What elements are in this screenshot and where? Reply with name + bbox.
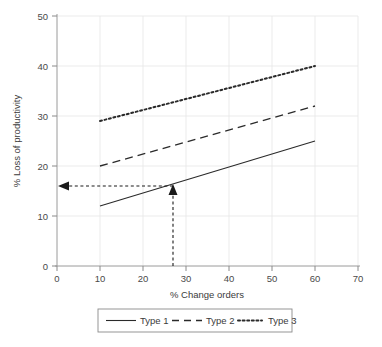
y-tick-label-20: 20	[37, 161, 48, 172]
y-tick-label-40: 40	[37, 61, 48, 72]
legend: Type 1 Type 2 Type 3	[98, 309, 297, 332]
chart-container: 50 40 30 20 10 0 0 10 20 30 40 50	[0, 0, 382, 347]
y-tick-label-30: 30	[37, 111, 48, 122]
x-tick-label-40: 40	[224, 273, 235, 284]
y-axis-title: % Loss of productivity	[11, 95, 22, 188]
x-tick-label-10: 10	[95, 273, 106, 284]
legend-label-type-2: Type 2	[206, 315, 235, 326]
x-tick-label-60: 60	[310, 273, 321, 284]
x-tick-label-0: 0	[54, 273, 59, 284]
legend-label-type-1: Type 1	[140, 315, 169, 326]
x-tick-label-20: 20	[138, 273, 149, 284]
x-tick-label-70: 70	[353, 273, 364, 284]
x-tick-label-50: 50	[267, 273, 278, 284]
line-chart: 50 40 30 20 10 0 0 10 20 30 40 50	[0, 0, 382, 347]
x-axis-title: % Change orders	[170, 289, 244, 300]
legend-label-type-3: Type 3	[268, 315, 297, 326]
x-tick-label-30: 30	[181, 273, 192, 284]
y-tick-label-50: 50	[37, 11, 48, 22]
y-tick-label-10: 10	[37, 211, 48, 222]
y-tick-label-0: 0	[43, 261, 48, 272]
